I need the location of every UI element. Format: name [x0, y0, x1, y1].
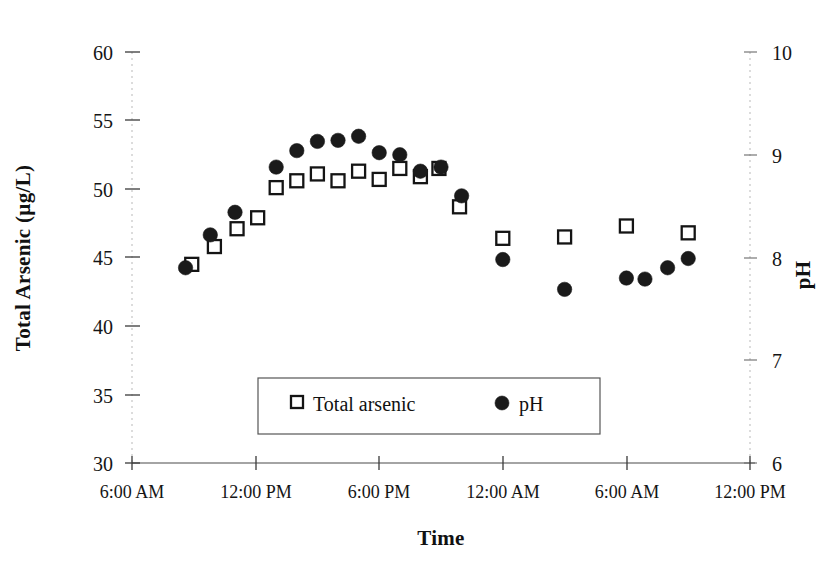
right-tick-label: 9: [772, 145, 782, 167]
x-tick-label: 12:00 PM: [714, 482, 786, 502]
x-tick-label: 6:00 AM: [100, 482, 165, 502]
data-point-ph: [393, 148, 407, 162]
y2-axis-title: pH: [791, 261, 815, 290]
left-tick-label: 45: [93, 247, 113, 269]
series-total-arsenic: [185, 162, 694, 271]
right-axis-tick-labels: 10 9 8 7 6: [772, 42, 792, 475]
data-point-ph: [203, 228, 217, 242]
x-tick-label: 6:00 AM: [595, 482, 660, 502]
data-point-ph: [269, 160, 283, 174]
bottom-axis-tick-labels: 6:00 AM 12:00 PM 6:00 PM 12:00 AM 6:00 A…: [100, 482, 786, 502]
chart-figure: 60 55 50 45 40 35 30 10 9 8 7 6 6:00 AM …: [0, 0, 840, 586]
data-point-ph: [228, 205, 242, 219]
scatter-plot-svg: 60 55 50 45 40 35 30 10 9 8 7 6 6:00 AM …: [0, 0, 840, 586]
data-point-ph: [351, 129, 365, 143]
data-point-ph: [178, 261, 192, 275]
data-point-total-arsenic: [231, 222, 244, 235]
x-tick-label: 12:00 AM: [466, 482, 540, 502]
y-axis-title: Total Arsenic (µg/L): [11, 165, 35, 352]
data-point-ph: [331, 133, 345, 147]
data-point-total-arsenic: [290, 174, 303, 187]
chart-legend[interactable]: Total arsenic pH: [258, 378, 600, 434]
data-point-ph: [638, 272, 652, 286]
data-point-ph: [681, 251, 695, 265]
data-point-ph: [619, 271, 633, 285]
left-tick-label: 60: [93, 42, 113, 64]
left-tick-label: 30: [93, 453, 113, 475]
left-tick-label: 50: [93, 179, 113, 201]
right-tick-label: 7: [772, 350, 782, 372]
data-point-total-arsenic: [620, 219, 633, 232]
data-point-ph: [557, 282, 571, 296]
right-tick-label: 10: [772, 42, 792, 64]
left-axis-tick-labels: 60 55 50 45 40 35 30: [93, 42, 113, 475]
data-point-ph: [372, 146, 386, 160]
data-point-total-arsenic: [311, 167, 324, 180]
data-point-ph: [434, 160, 448, 174]
data-point-ph: [660, 261, 674, 275]
x-tick-label: 6:00 PM: [348, 482, 411, 502]
data-point-total-arsenic: [373, 173, 386, 186]
left-tick-label: 55: [93, 110, 113, 132]
legend-label-ph: pH: [519, 393, 543, 416]
data-point-ph: [413, 164, 427, 178]
data-point-total-arsenic: [270, 181, 283, 194]
data-point-ph: [310, 134, 324, 148]
data-point-total-arsenic: [558, 230, 571, 243]
legend-marker-open-square: [291, 396, 303, 408]
data-point-ph: [454, 189, 468, 203]
x-axis-title: Time: [417, 526, 464, 550]
legend-label-total-arsenic: Total arsenic: [313, 393, 416, 415]
data-point-total-arsenic: [682, 226, 695, 239]
data-point-total-arsenic: [332, 174, 345, 187]
data-point-total-arsenic: [496, 232, 509, 245]
data-point-total-arsenic: [251, 211, 264, 224]
data-point-total-arsenic: [393, 162, 406, 175]
x-tick-label: 12:00 PM: [220, 482, 292, 502]
legend-box: [258, 378, 600, 434]
left-tick-label: 35: [93, 385, 113, 407]
legend-marker-filled-circle: [495, 396, 509, 410]
right-tick-label: 6: [772, 453, 782, 475]
left-tick-label: 40: [93, 316, 113, 338]
data-point-ph: [290, 143, 304, 157]
data-point-ph: [496, 252, 510, 266]
data-point-total-arsenic: [352, 165, 365, 178]
right-tick-label: 8: [772, 248, 782, 270]
